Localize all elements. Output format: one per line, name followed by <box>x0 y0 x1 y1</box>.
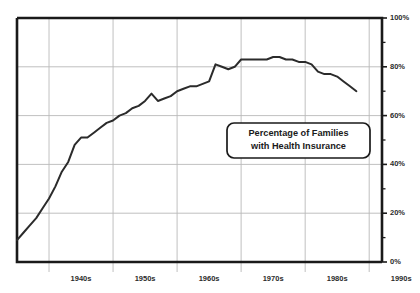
series-label-line-2: with Health Insurance <box>250 141 346 151</box>
series-label-box: Percentage of Families with Health Insur… <box>227 123 370 158</box>
y-axis-ticks: 0%20%40%60%80%100% <box>382 13 410 266</box>
series-label-line-1: Percentage of Families <box>248 128 348 138</box>
x-tick-label-1950: 1950s <box>135 274 156 283</box>
y-tick-label-100: 100% <box>390 13 410 22</box>
y-tick-label-40: 40% <box>390 159 405 168</box>
x-tick-label-1940: 1940s <box>71 274 92 283</box>
x-tick-label-1960: 1960s <box>199 274 220 283</box>
y-tick-label-20: 20% <box>390 208 405 217</box>
x-tick-label-1990: 1990s <box>391 274 412 283</box>
x-tick-label-1970: 1970s <box>263 274 284 283</box>
health-insurance-line-chart: 0%20%40%60%80%100% 1940s1950s1960s1970s1… <box>0 0 420 293</box>
y-tick-label-80: 80% <box>390 62 405 71</box>
x-axis-ticks: 1940s1950s1960s1970s1980s1990s <box>71 274 412 283</box>
y-tick-label-60: 60% <box>390 111 405 120</box>
chart-container: 0%20%40%60%80%100% 1940s1950s1960s1970s1… <box>0 0 420 293</box>
x-tick-label-1980: 1980s <box>327 274 348 283</box>
y-tick-label-0: 0% <box>390 257 401 266</box>
